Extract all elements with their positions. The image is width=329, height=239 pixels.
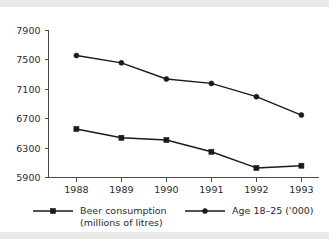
y-tick-label: 6300 xyxy=(16,143,40,154)
x-tick-label: 1991 xyxy=(199,184,223,195)
x-axis-tick-labels: 198819891990199119921993 xyxy=(64,184,313,195)
x-tick-label: 1990 xyxy=(154,184,178,195)
y-tick-label: 6700 xyxy=(16,113,40,124)
y-tick-label: 7900 xyxy=(16,25,40,36)
data-point-marker xyxy=(164,77,169,82)
chart-legend: Beer consumption(millions of litres)Age … xyxy=(33,205,314,228)
y-axis-tick-marks xyxy=(45,31,49,178)
data-point-marker xyxy=(164,138,169,143)
legend-label-0-line2: (millions of litres) xyxy=(80,217,163,228)
data-point-marker xyxy=(254,94,259,99)
series-markers xyxy=(74,53,304,170)
data-point-marker xyxy=(254,165,259,170)
y-axis-tick-labels: 590063006700710075007900 xyxy=(16,25,40,183)
y-tick-label: 5900 xyxy=(16,172,40,183)
data-point-marker xyxy=(119,135,124,140)
x-tick-label: 1989 xyxy=(109,184,133,195)
data-point-marker xyxy=(209,149,214,154)
x-tick-label: 1993 xyxy=(289,184,313,195)
data-point-marker xyxy=(74,126,79,131)
series-lines xyxy=(76,55,301,167)
data-point-marker xyxy=(209,81,214,86)
data-point-marker xyxy=(119,60,124,65)
data-point-marker xyxy=(299,163,304,168)
series-line-0 xyxy=(76,129,301,168)
legend-marker-0 xyxy=(51,209,56,214)
data-point-marker xyxy=(74,53,79,58)
chart-figure: 590063006700710075007900 198819891990199… xyxy=(0,0,329,239)
x-tick-label: 1992 xyxy=(244,184,268,195)
legend-label-1: Age 18–25 ('000) xyxy=(232,205,314,216)
line-chart: 590063006700710075007900 198819891990199… xyxy=(0,0,329,239)
x-tick-label: 1988 xyxy=(64,184,88,195)
axis-spine xyxy=(49,31,319,178)
data-point-marker xyxy=(299,113,304,118)
x-axis-tick-marks xyxy=(76,178,301,182)
series-line-1 xyxy=(76,55,301,115)
legend-marker-1 xyxy=(203,209,208,214)
legend-label-0: Beer consumption xyxy=(80,205,167,216)
y-tick-label: 7100 xyxy=(16,84,40,95)
y-tick-label: 7500 xyxy=(16,54,40,65)
